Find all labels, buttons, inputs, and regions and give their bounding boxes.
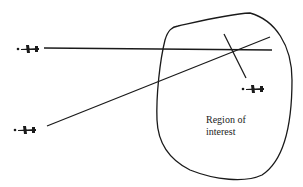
perpendicular-line xyxy=(224,34,246,78)
aircraft-icon xyxy=(242,85,264,93)
aircraft-icon xyxy=(17,45,39,53)
region-label-line2: interest xyxy=(206,126,246,138)
diagram-canvas xyxy=(0,0,303,187)
aircraft-icon xyxy=(14,126,36,134)
region-of-interest-label: Region of interest xyxy=(206,114,246,138)
region-label-line1: Region of xyxy=(206,114,246,126)
region-of-interest-boundary xyxy=(157,13,292,180)
bearing-line-diagonal xyxy=(47,37,270,126)
